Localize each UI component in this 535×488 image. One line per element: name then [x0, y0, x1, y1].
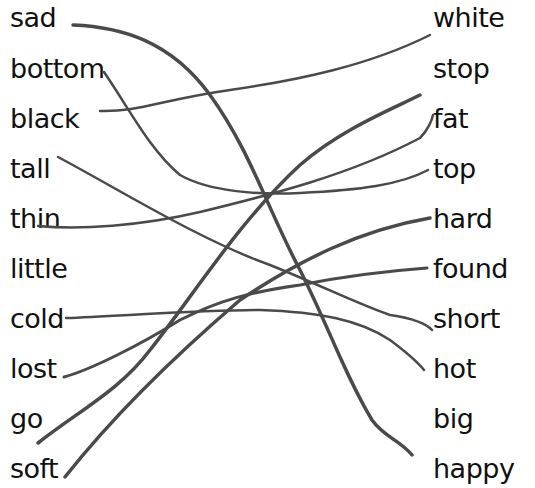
- line-black-white: [100, 35, 430, 111]
- line-sad-happy: [73, 25, 412, 455]
- line-cold-hot: [66, 310, 424, 370]
- line-tall-short: [58, 157, 432, 330]
- match-lines: [0, 0, 535, 488]
- line-bottom-top: [104, 72, 428, 194]
- line-go-stop: [38, 95, 420, 443]
- line-lost-found: [64, 268, 427, 377]
